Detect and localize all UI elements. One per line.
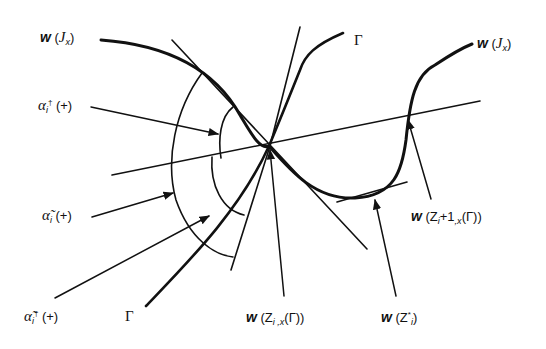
pointer-w-z-star — [375, 200, 396, 296]
pointer-alpha-tilde-dagger — [55, 216, 209, 298]
label-w-z-star: w (Z*i) — [381, 310, 417, 327]
pointer-alpha-tilde — [92, 193, 173, 217]
diagram-canvas: w (Jx) Γ w (Jx) αi† (+) α̃i (+) α̃i† (+)… — [0, 0, 546, 349]
pointer-w-z-i-x — [270, 150, 284, 296]
label-alpha-tilde-dagger: α̃i† (+) — [24, 309, 58, 326]
diagram-graphics — [0, 0, 546, 349]
pointer-w-z-i1-x — [408, 120, 431, 199]
label-alpha-dagger: αi† (+) — [38, 98, 72, 115]
arc-inner-lower — [212, 157, 244, 215]
label-w-jx-right: w (Jx) — [477, 36, 511, 53]
line-steep-lower — [231, 146, 270, 270]
line-tangent-minimum — [337, 182, 407, 202]
label-w-jx-left: w (Jx) — [40, 30, 74, 47]
label-alpha-tilde: α̃i (+) — [42, 208, 72, 225]
label-w-z-i-x: w (Zi ,x(Γ)) — [246, 310, 304, 327]
curve-gamma — [146, 33, 343, 306]
label-w-z-i1-x: w (Zi+1,x(Γ)) — [411, 209, 482, 226]
label-gamma-bottom: Γ — [125, 309, 134, 324]
line-horizontal — [112, 101, 480, 175]
arc-large — [172, 73, 233, 257]
line-tangent-diagonal — [172, 40, 367, 249]
curve-w-jx — [101, 40, 472, 198]
pointer-alpha-dagger — [91, 107, 218, 134]
line-steep-upper — [270, 27, 300, 146]
label-gamma-top: Γ — [354, 33, 363, 48]
